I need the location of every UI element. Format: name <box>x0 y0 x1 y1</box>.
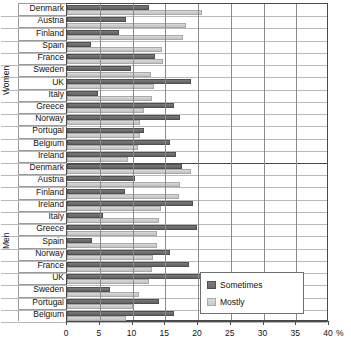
category-label: Spain <box>42 41 64 50</box>
bar-chart: DenmarkAustriaFinlandSpainFranceSwedenUK… <box>0 0 351 354</box>
category-label: Italy <box>48 90 64 99</box>
category-label: Spain <box>42 237 64 246</box>
row-separator <box>1 212 327 213</box>
x-tick-label: 25 <box>225 328 234 338</box>
x-tick <box>132 321 133 325</box>
legend-label-sometimes: Sometimes <box>220 280 263 290</box>
row-separator <box>1 65 327 66</box>
category-label: UK <box>52 78 64 87</box>
category-label: Ireland <box>38 151 64 160</box>
group-axis-label-women: Women <box>1 65 11 94</box>
grid-line <box>100 4 101 320</box>
category-label: Sweden <box>33 65 64 74</box>
legend-swatch-mostly <box>207 298 216 306</box>
x-tick <box>197 321 198 325</box>
bar-mostly <box>67 255 153 260</box>
bar-mostly <box>67 182 180 187</box>
x-tick <box>263 321 264 325</box>
category-label: Denmark <box>30 4 64 13</box>
bar-mostly <box>67 194 179 199</box>
row-separator <box>1 90 327 91</box>
x-tick <box>328 321 329 325</box>
x-tick-label: 30 <box>258 328 267 338</box>
row-separator <box>1 28 327 29</box>
category-label: Belgium <box>33 139 64 148</box>
category-label: Austria <box>38 175 64 184</box>
category-label: UK <box>52 273 64 282</box>
category-label: Austria <box>38 16 64 25</box>
bar-mostly <box>67 47 162 52</box>
x-tick <box>99 321 100 325</box>
row-separator <box>1 175 327 176</box>
x-tick-label: 20 <box>192 328 201 338</box>
category-label: Portugal <box>32 126 64 135</box>
bar-mostly <box>67 169 191 174</box>
bar-mostly <box>67 218 159 223</box>
category-label: Belgium <box>33 310 64 319</box>
category-label: Norway <box>35 249 64 258</box>
bar-mostly <box>67 206 161 211</box>
row-separator <box>1 236 327 237</box>
bar-mostly <box>67 279 149 284</box>
x-tick-label: 5 <box>96 328 101 338</box>
x-tick <box>295 321 296 325</box>
bar-mostly <box>67 120 140 125</box>
grid-line <box>133 4 134 320</box>
category-label: Greece <box>36 102 64 111</box>
x-tick-label: 35 <box>291 328 300 338</box>
x-tick-label: 15 <box>160 328 169 338</box>
row-separator <box>1 16 327 17</box>
category-label: Sweden <box>33 285 64 294</box>
x-axis-unit-label: % <box>336 328 344 338</box>
grid-line <box>165 4 166 320</box>
bar-mostly <box>67 96 152 101</box>
bar-mostly <box>67 10 202 15</box>
row-separator <box>1 41 327 42</box>
category-label: Italy <box>48 212 64 221</box>
grid-line <box>198 4 199 320</box>
x-tick <box>230 321 231 325</box>
bar-mostly <box>67 243 157 248</box>
bar-mostly <box>67 23 186 28</box>
bar-mostly <box>67 84 154 89</box>
x-tick <box>164 321 165 325</box>
x-tick-label: 40 <box>323 328 332 338</box>
x-tick <box>66 321 67 325</box>
category-label: Greece <box>36 224 64 233</box>
bar-mostly <box>67 267 152 272</box>
category-label: Portugal <box>32 298 64 307</box>
category-label: Norway <box>35 114 64 123</box>
row-separator <box>1 126 327 127</box>
category-label: Finland <box>36 29 64 38</box>
bar-mostly <box>67 72 151 77</box>
bar-mostly <box>67 133 140 138</box>
group-axis-label-men: Men <box>1 232 11 249</box>
category-label: France <box>38 53 64 62</box>
row-separator <box>1 53 327 54</box>
bar-mostly <box>67 292 139 297</box>
bar-mostly <box>67 59 163 64</box>
bar-mostly <box>67 231 157 236</box>
x-tick-label: 10 <box>127 328 136 338</box>
bar-mostly <box>67 157 128 162</box>
category-label: Denmark <box>30 163 64 172</box>
legend: Sometimes Mostly <box>200 272 304 314</box>
category-label: France <box>38 261 64 270</box>
bar-mostly <box>67 145 138 150</box>
x-tick-label: 0 <box>64 328 69 338</box>
legend-swatch-sometimes <box>207 281 216 289</box>
row-separator <box>1 187 327 188</box>
category-label: Finland <box>36 188 64 197</box>
category-label: Ireland <box>38 200 64 209</box>
legend-label-mostly: Mostly <box>220 297 245 307</box>
